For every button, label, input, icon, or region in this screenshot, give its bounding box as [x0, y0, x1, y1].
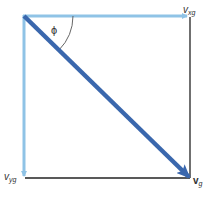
- angle-arc: [59, 16, 73, 50]
- resultant-arrow: [24, 16, 189, 177]
- vector-diagram: ϕ vxg vyg vg: [0, 0, 215, 199]
- angle-label: ϕ: [51, 24, 57, 36]
- y-component-label: vyg: [4, 171, 17, 184]
- resultant-label: vg: [193, 175, 203, 188]
